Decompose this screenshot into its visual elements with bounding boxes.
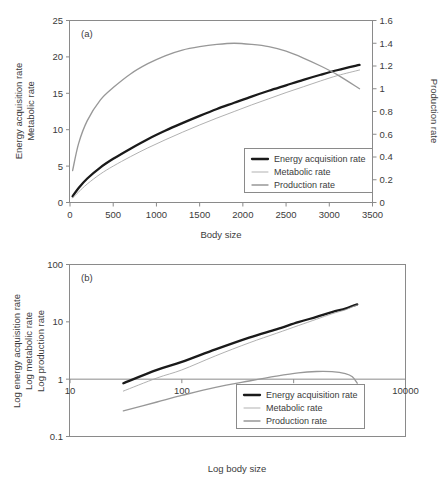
panel-a-right-tick-label: 1.4 xyxy=(380,38,393,49)
panel-a-x-tick-label: 1500 xyxy=(189,209,210,220)
panel-a-right-tick-label: 0 xyxy=(380,197,385,208)
panel-a-x-tick-label: 2500 xyxy=(276,209,297,220)
panel-a-ylabel-line-1: Energy acquisition rate xyxy=(13,63,24,160)
panel-a-right-tick-label: 1.2 xyxy=(380,60,393,71)
panel-a-y2label-text: Production rate xyxy=(429,79,440,143)
panel-a-right-tick-label: 0.8 xyxy=(380,106,393,117)
panel-b-legend-label-metabolic: Metabolic rate xyxy=(266,403,323,413)
panel-a-x-tick-label: 0 xyxy=(67,209,72,220)
panel-a-xlabel: Body size xyxy=(200,229,241,240)
panel-b-background xyxy=(0,246,445,492)
panel-a-x-tick-label: 3000 xyxy=(319,209,340,220)
panel-b-y-tick-label: 100 xyxy=(47,259,63,270)
panel-a-left-tick-label: 15 xyxy=(52,88,63,99)
panel-a-label: (a) xyxy=(81,28,93,39)
panel-b-label: (b) xyxy=(81,272,93,283)
panel-a-x-tick-label: 3500 xyxy=(362,209,383,220)
panel-a-svg: (a) 0510152025 00.20.40.60.811.21.41.6 0… xyxy=(0,0,445,246)
panel-a-left-tick-label: 25 xyxy=(52,15,63,26)
panel-b-svg: (b) 0.1110100 10100100010000 Log energy … xyxy=(0,246,445,492)
panel-a-left-tick-label: 0 xyxy=(58,197,63,208)
panel-b-legend[interactable]: Energy acquisition rate Metabolic rate P… xyxy=(237,385,365,429)
panel-a-right-tick-label: 0.4 xyxy=(380,151,393,162)
panel-a-x-tick-label: 500 xyxy=(105,209,121,220)
panel-a-ylabel-line-2: Metabolic rate xyxy=(25,81,36,141)
panel-a-left-tick-label: 10 xyxy=(52,124,63,135)
panel-a-legend-label-production: Production rate xyxy=(274,180,335,190)
panel-a-y2label: Production rate xyxy=(429,79,440,143)
panel-a-legend-label-metabolic: Metabolic rate xyxy=(274,167,331,177)
panel-b-y-tick-label: 1 xyxy=(58,374,63,385)
panel-a-legend[interactable]: Energy acquisition rate Metabolic rate P… xyxy=(245,149,373,193)
panel-a-x-tick-label: 1000 xyxy=(146,209,167,220)
panel-b-y-tick-label: 0.1 xyxy=(50,431,63,442)
panel-b-ylabel-line-3: Log production rate xyxy=(35,310,46,392)
panel-b-x-tick-label: 10000 xyxy=(392,385,418,396)
panel-b-loglog-chart: (b) 0.1110100 10100100010000 Log energy … xyxy=(0,246,445,492)
panel-a-left-tick-label: 20 xyxy=(52,51,63,62)
panel-b-xlabel: Log body size xyxy=(208,463,267,474)
panel-a-right-tick-label: 0.6 xyxy=(380,129,393,140)
panel-b-legend-label-energy: Energy acquisition rate xyxy=(266,390,358,400)
panel-b-legend-label-production: Production rate xyxy=(266,416,327,426)
panel-a-linear-chart: (a) 0510152025 00.20.40.60.811.21.41.6 0… xyxy=(0,0,445,246)
panel-a-legend-label-energy: Energy acquisition rate xyxy=(274,154,366,164)
panel-b-x-tick-label: 10 xyxy=(65,385,76,396)
panel-a-x-tick-label: 2000 xyxy=(232,209,253,220)
panel-a-right-tick-label: 1 xyxy=(380,83,385,94)
panel-b-ylabel-line-2: Log metabolic rate xyxy=(23,312,34,390)
panel-a-left-tick-label: 5 xyxy=(58,161,63,172)
panel-a-right-tick-label: 0.2 xyxy=(380,174,393,185)
panel-a-right-tick-label: 1.6 xyxy=(380,15,393,26)
panel-b-ylabel-line-1: Log energy acquisition rate xyxy=(11,294,22,408)
panel-b-y-tick-label: 10 xyxy=(52,316,63,327)
